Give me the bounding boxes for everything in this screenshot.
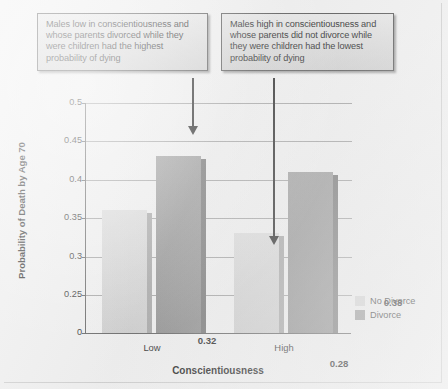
bar-3d-side (279, 236, 284, 333)
scanned-figure-page: Males low in conscientiousness and whose… (0, 0, 448, 389)
x-axis-title: Conscientiousness (85, 365, 351, 376)
y-tick-mark (82, 141, 86, 142)
y-tick-mark (82, 103, 86, 104)
y-tick-label-0: 0.5 (38, 97, 82, 107)
y-tick-mark (82, 257, 86, 258)
y-tick-label-6: 0 (38, 327, 82, 337)
arrow-head-icon (269, 236, 279, 245)
bar-fill (234, 233, 279, 333)
bar-high-divorce[interactable] (288, 172, 333, 333)
legend-swatch-no-divorce (355, 296, 365, 306)
chart-legend: No Divorce Divorce (355, 296, 415, 324)
legend-swatch-divorce (355, 310, 365, 320)
y-tick-mark (82, 333, 86, 334)
gridline (86, 103, 352, 104)
bar-3d-side (201, 159, 206, 333)
y-tick-mark (82, 295, 86, 296)
bar-low-divorce[interactable] (156, 156, 201, 333)
bar-low-no-divorce[interactable] (102, 210, 147, 333)
bar-fill (156, 156, 201, 333)
bar-3d-side (333, 175, 338, 333)
bar-value-low-no-divorce: 0.32 (187, 335, 227, 346)
arrow-shaft (273, 78, 275, 238)
annotation-callout-high-conscientiousness: Males high in conscientiousness and whos… (221, 13, 394, 71)
y-tick-label-5: 0.25 (38, 289, 82, 299)
y-tick-label-1: 0.45 (38, 135, 82, 145)
legend-item-divorce[interactable]: Divorce (355, 310, 415, 320)
bar-3d-side (147, 213, 152, 333)
annotation-callout-low-conscientiousness: Males low in conscientiousness and whose… (37, 13, 208, 71)
legend-item-no-divorce[interactable]: No Divorce (355, 296, 415, 306)
legend-label-divorce: Divorce (370, 310, 401, 320)
y-axis-title: Probability of Death by Age 70 (16, 116, 27, 306)
y-tick-mark (82, 218, 86, 219)
arrow-shaft (192, 78, 194, 128)
gridline (86, 141, 352, 142)
legend-label-no-divorce: No Divorce (370, 296, 415, 306)
y-tick-label-2: 0.4 (38, 174, 82, 184)
arrow-head-icon (188, 126, 198, 135)
bar-fill (102, 210, 147, 333)
bar-fill (288, 172, 333, 333)
y-tick-label-3: 0.35 (38, 212, 82, 222)
x-tick-label-high: High (249, 342, 319, 353)
bar-high-no-divorce[interactable] (234, 233, 279, 333)
y-tick-label-4: 0.3 (38, 251, 82, 261)
plot-area: 0.5 0.45 0.4 0.35 0.3 0.25 0 0.32 0.42 (85, 103, 351, 334)
x-tick-label-low: Low (117, 342, 187, 353)
y-tick-mark (82, 180, 86, 181)
